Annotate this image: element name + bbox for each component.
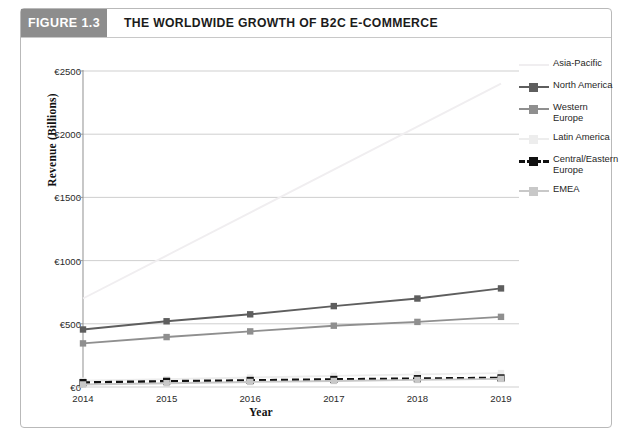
series-marker — [331, 303, 337, 309]
legend-item[interactable]: EMEA — [519, 184, 619, 197]
figure-header: FIGURE 1.3 THE WORLDWIDE GROWTH OF B2C E… — [21, 9, 611, 38]
legend-swatch-icon — [519, 155, 549, 167]
series-marker — [80, 381, 86, 387]
legend-item[interactable]: Asia-Pacific — [519, 58, 619, 71]
legend-swatch-icon — [519, 81, 549, 93]
figure-card: FIGURE 1.3 THE WORLDWIDE GROWTH OF B2C E… — [20, 8, 612, 428]
legend-label: Latin America — [553, 132, 610, 143]
legend-item[interactable]: Western Europe — [519, 102, 619, 123]
series-marker — [498, 285, 504, 291]
series-marker — [247, 328, 253, 334]
legend-item[interactable]: Central/Eastern Europe — [519, 154, 619, 175]
legend-label: North America — [553, 80, 612, 91]
legend-label: EMEA — [553, 184, 580, 195]
legend-label: Asia-Pacific — [553, 58, 602, 69]
series-marker — [498, 314, 504, 320]
legend-swatch-icon — [519, 185, 549, 197]
series-marker — [163, 318, 169, 324]
series-marker — [331, 378, 337, 384]
chart-legend: Asia-PacificNorth AmericaWestern EuropeL… — [519, 58, 619, 206]
series-marker — [331, 322, 337, 328]
series-line — [83, 84, 501, 299]
series-marker — [414, 377, 420, 383]
series-marker — [163, 334, 169, 340]
series-marker — [414, 319, 420, 325]
legend-label: Central/Eastern Europe — [553, 154, 618, 175]
series-marker — [80, 326, 86, 332]
figure-number-badge: FIGURE 1.3 — [21, 9, 107, 37]
series-marker — [414, 295, 420, 301]
legend-item[interactable]: Latin America — [519, 132, 619, 145]
series-marker — [163, 380, 169, 386]
legend-swatch-icon — [519, 133, 549, 145]
series-marker — [247, 379, 253, 385]
series-marker — [80, 340, 86, 346]
series-marker — [498, 376, 504, 382]
series-line — [83, 317, 501, 344]
page-bleed-strip — [22, 432, 610, 446]
legend-label: Western Europe — [553, 102, 619, 123]
figure-title: THE WORLDWIDE GROWTH OF B2C E-COMMERCE — [107, 9, 611, 37]
chart-area: Revenue (Billions) Year €0€500€1000€1500… — [21, 38, 611, 427]
series-marker — [247, 311, 253, 317]
legend-swatch-icon — [519, 103, 549, 115]
series-line — [83, 288, 501, 329]
legend-item[interactable]: North America — [519, 80, 619, 93]
legend-swatch-icon — [519, 59, 549, 71]
